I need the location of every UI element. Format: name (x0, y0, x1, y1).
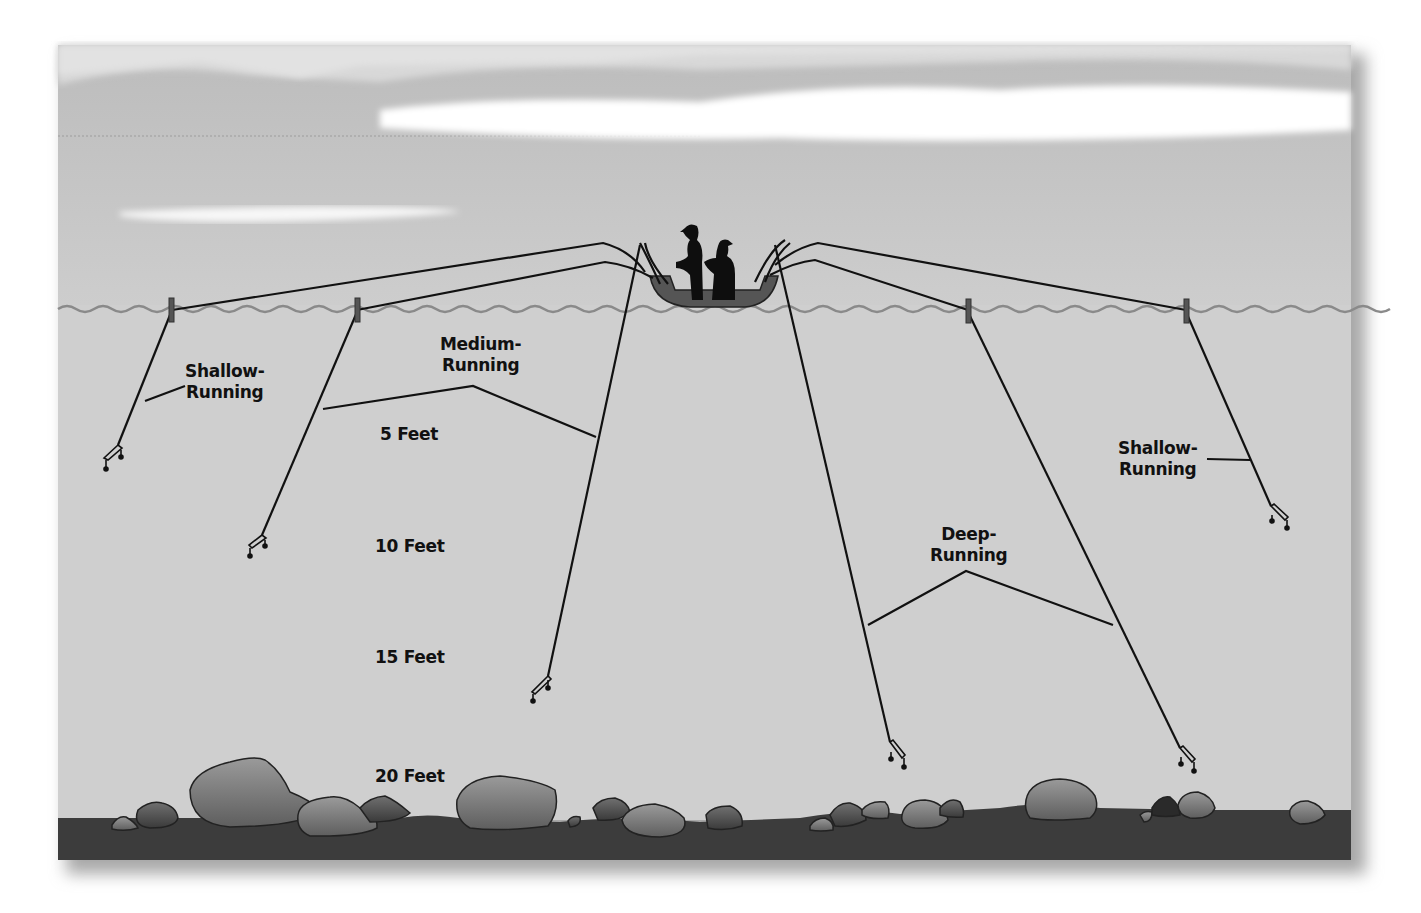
label-line-2: Running (1118, 459, 1198, 480)
leader-shallow-right (1207, 459, 1250, 460)
label-line-1: Medium- (440, 334, 521, 355)
depth-marker-20ft: 20 Feet (375, 766, 445, 786)
label-line-1: Shallow- (1118, 438, 1198, 459)
depth-marker-5ft: 5 Feet (380, 424, 438, 444)
label-line-1: Shallow- (185, 361, 265, 382)
planer-board-3 (966, 299, 971, 323)
label-line-2: Running (930, 545, 1007, 566)
trolling-diagram: Shallow- Running Medium- Running Deep- R… (0, 0, 1421, 913)
label-shallow-running-right: Shallow- Running (1118, 438, 1198, 480)
planer-board-1 (169, 298, 174, 322)
depth-marker-10ft: 10 Feet (375, 536, 445, 556)
label-shallow-running-left: Shallow- Running (185, 361, 265, 403)
depth-marker-15ft: 15 Feet (375, 647, 445, 667)
diagram-illustration (0, 0, 1421, 913)
planer-board-2 (355, 298, 360, 322)
label-line-2: Running (185, 382, 265, 403)
planer-board-4 (1184, 299, 1189, 323)
label-medium-running: Medium- Running (440, 334, 521, 376)
label-line-2: Running (440, 355, 521, 376)
label-deep-running: Deep- Running (930, 524, 1007, 566)
label-line-1: Deep- (930, 524, 1007, 545)
sky (58, 45, 1351, 305)
